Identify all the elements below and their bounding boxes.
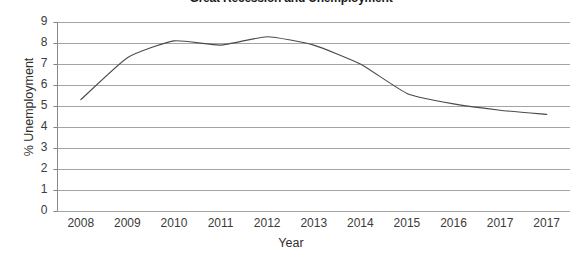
x-axis-tick-label: 2017 bbox=[517, 216, 577, 230]
y-axis-tick-label: 9 bbox=[28, 14, 48, 28]
chart-screenshot: Great Recession and Unemployment % Unemp… bbox=[0, 0, 582, 262]
y-axis-tick-label: 3 bbox=[28, 140, 48, 154]
data-series-line bbox=[81, 37, 547, 115]
y-axis-tick-label: 6 bbox=[28, 77, 48, 91]
y-axis-tick-label: 7 bbox=[28, 56, 48, 70]
y-axis-tick-label: 4 bbox=[28, 119, 48, 133]
y-axis-tick-label: 5 bbox=[28, 98, 48, 112]
y-axis-tick-label: 2 bbox=[28, 161, 48, 175]
y-axis-tick-label: 1 bbox=[28, 182, 48, 196]
gridlines bbox=[58, 23, 571, 212]
y-axis-tick-label: 0 bbox=[28, 203, 48, 217]
y-axis-tick-label: 8 bbox=[28, 35, 48, 49]
y-axis-tick-marks bbox=[54, 23, 58, 212]
